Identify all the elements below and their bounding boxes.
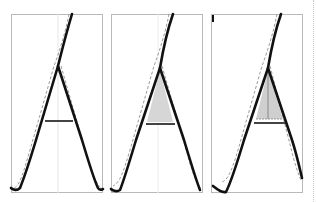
- dotted-divider: [313, 0, 314, 202]
- glyph-stage-2: [111, 14, 201, 193]
- letter-a-diagram: [0, 0, 316, 202]
- glyph-stage-1: [11, 14, 103, 193]
- glyph-stage-3: [213, 14, 302, 192]
